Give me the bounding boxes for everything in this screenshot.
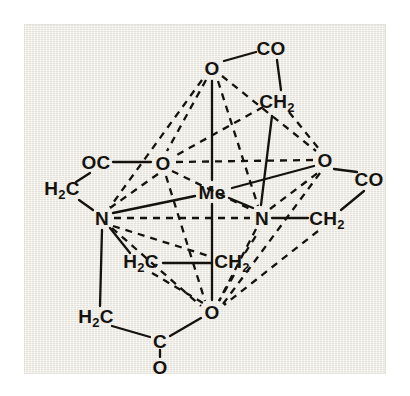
atom-label-ch2_mid: CH2 <box>214 252 249 274</box>
atom-symbol-suffix: C <box>66 178 80 199</box>
bond-solid-h2c_left-n_left <box>79 200 93 210</box>
bond-dashed-o_left-n_left <box>110 174 158 208</box>
atom-symbol: H <box>78 306 92 327</box>
bond-solid-o_top-co_top <box>224 52 256 61</box>
atom-symbol: OC <box>82 152 111 173</box>
atom-symbol: CH <box>309 208 337 229</box>
atom-symbol: Me <box>199 182 226 203</box>
atom-symbol: H <box>123 251 137 272</box>
atom-label-o_right: O <box>318 151 333 170</box>
atom-label-o_carbonyl: O <box>153 358 168 377</box>
atom-label-o_left: O <box>156 154 171 173</box>
atom-label-co_right: CO <box>355 170 384 189</box>
atom-symbol: CO <box>355 169 384 190</box>
atom-label-o_top: O <box>205 59 220 78</box>
atom-subscript: 2 <box>337 217 344 232</box>
atom-symbol: O <box>318 150 333 171</box>
atom-subscript: 2 <box>287 100 294 115</box>
figure-page: OCOCH2OCOOCOH2CMeNNCH2H2CCH2H2COCO <box>0 0 410 396</box>
atom-symbol-suffix: C <box>100 306 114 327</box>
atom-label-oc_left: OC <box>82 153 111 172</box>
atom-label-o_bottom: O <box>205 303 220 322</box>
atom-symbol: CO <box>257 38 286 59</box>
atom-symbol: CH <box>214 251 242 272</box>
atom-symbol: H <box>44 178 58 199</box>
atom-label-me_center: Me <box>199 183 226 202</box>
bond-solid-me_center-n_right <box>229 198 253 208</box>
atom-symbol: O <box>205 302 220 323</box>
atom-label-h2c_left: H2C <box>44 179 79 201</box>
bond-dashed-ch2_top-o_left <box>175 107 263 156</box>
atom-label-c_bottom: C <box>153 332 167 351</box>
bond-solid-co_right-ch2_right <box>341 191 364 210</box>
atom-symbol: O <box>156 153 171 174</box>
atom-subscript: 2 <box>242 260 249 275</box>
bond-dashed-o_top-o_left <box>167 80 206 151</box>
bond-solid-o_right-co_right <box>334 169 357 172</box>
atom-symbol: O <box>153 357 168 378</box>
bond-dashed-o_right-o_bottom <box>223 173 320 304</box>
bond-dashed-o_top-n_left <box>110 80 202 207</box>
atom-label-n_left: N <box>95 209 109 228</box>
bond-solid-c_bottom-o_bottom <box>170 318 201 336</box>
bond-solid-co_top-ch2_top <box>277 60 281 90</box>
atom-label-ch2_top: CH2 <box>259 92 294 114</box>
atom-symbol: N <box>95 208 109 229</box>
bond-solid-n_left-h2c_low <box>100 230 102 306</box>
atom-symbol: C <box>153 331 167 352</box>
atom-symbol-suffix: C <box>145 251 159 272</box>
bond-dashed-ch2_mid-o_bottom <box>219 275 234 301</box>
atom-symbol: N <box>255 208 269 229</box>
atom-label-h2c_mid: H2C <box>123 252 158 274</box>
solid-bond-layer <box>76 52 364 357</box>
atom-label-co_top: CO <box>257 39 286 58</box>
bond-dashed-o_left-o_right <box>176 160 313 162</box>
bond-dashed-n_right-o_right <box>270 172 319 209</box>
atom-symbol: O <box>205 58 220 79</box>
atom-symbol: CH <box>259 91 287 112</box>
atom-label-ch2_right: CH2 <box>309 209 344 231</box>
bond-dashed-h2c_mid-o_bottom <box>152 273 203 303</box>
bond-dashed-ch2_top-o_right <box>289 112 319 149</box>
bond-solid-h2c_low-c_bottom <box>112 326 150 337</box>
atom-label-h2c_low: H2C <box>78 307 113 329</box>
atom-label-n_right: N <box>255 209 269 228</box>
